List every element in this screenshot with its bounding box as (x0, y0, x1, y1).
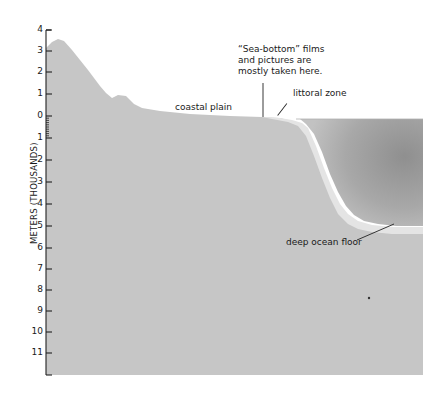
tick-label: 1 (29, 89, 43, 98)
tick-label: 2 (29, 67, 43, 76)
tick-label: 6 (29, 243, 43, 252)
speck (368, 297, 370, 299)
label-coastal-plain: coastal plain (175, 102, 232, 113)
tick-label: 8 (29, 285, 43, 294)
label-deep-ocean-floor: deep ocean floor (286, 237, 362, 248)
tick-label: 3 (29, 46, 43, 55)
label-littoral-zone: littoral zone (293, 88, 347, 99)
littoral-zone-leader (278, 103, 287, 117)
sea-bottom-line-3: mostly taken here. (238, 66, 324, 77)
sea-bottom-line-1: “Sea-bottom” films (238, 44, 324, 55)
tick-label: 11 (29, 348, 43, 357)
axis-title: METERS (THOUSANDS) (29, 142, 39, 244)
tick-label: 7 (29, 264, 43, 273)
tick-label: 10 (29, 327, 43, 336)
label-sea-bottom: “Sea-bottom” films and pictures are most… (238, 44, 324, 77)
tick-label: 1 (29, 133, 43, 142)
tick-label: 0 (29, 111, 43, 120)
sea-bottom-line-2: and pictures are (238, 55, 324, 66)
ocean-profile-diagram (0, 0, 423, 399)
tick-label: 4 (29, 25, 43, 34)
tick-label: 9 (29, 306, 43, 315)
